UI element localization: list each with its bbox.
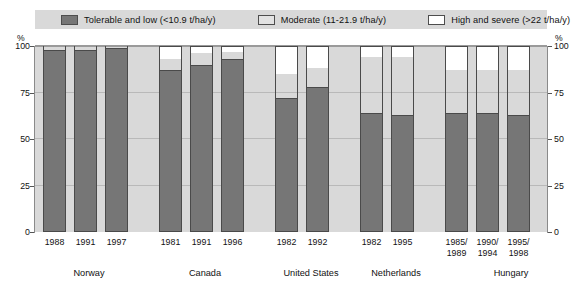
bar-1991[interactable] (74, 46, 97, 232)
bar-segment-high (275, 46, 298, 74)
y-tick-label-right-100: 100 (554, 41, 576, 51)
legend-item-moderate: Moderate (11-21.9 t/ha/y) (258, 15, 387, 25)
bar-segment-low (445, 113, 468, 232)
bar-segment-moderate (391, 57, 414, 115)
x-tick-label-12: 1995/ 1998 (499, 237, 539, 258)
bar-segment-high (476, 46, 499, 70)
bar-segment-moderate (74, 46, 97, 50)
legend-item-high: High and severe (>22 t/ha/y) (428, 15, 570, 25)
legend-label-high: High and severe (>22 t/ha/y) (451, 15, 570, 25)
bar-1982[interactable] (360, 46, 383, 232)
bar-segment-moderate (476, 70, 499, 113)
bar-1996[interactable] (221, 46, 244, 232)
bar-segment-moderate (275, 74, 298, 98)
bar-segment-low (74, 50, 97, 232)
bar-segment-low (476, 113, 499, 232)
y-tick-mark-left-75 (30, 93, 34, 94)
bar-segment-moderate (190, 53, 213, 64)
chart-plot-area (35, 46, 547, 232)
legend-label-low: Tolerable and low (<10.9 t/ha/y) (84, 15, 216, 25)
group-label-netherlands: Netherlands (336, 268, 456, 278)
bar-1992[interactable] (306, 46, 329, 232)
y-tick-label-right-75: 75 (554, 88, 576, 98)
bar-segment-high (507, 46, 530, 70)
bar-1997[interactable] (105, 46, 128, 232)
bar-segment-moderate (445, 70, 468, 113)
y-tick-mark-left-100 (30, 46, 34, 47)
bar-segment-high (391, 46, 414, 57)
y-tick-mark-right-25 (548, 186, 552, 187)
bar-1995--1998[interactable] (507, 46, 530, 232)
bar-segment-moderate (105, 46, 128, 48)
bar-segment-moderate (43, 46, 66, 50)
chart-legend: Tolerable and low (<10.9 t/ha/y) Moderat… (35, 10, 547, 29)
bar-segment-low (275, 98, 298, 232)
y-tick-mark-right-0 (548, 232, 552, 233)
legend-swatch-moderate (258, 15, 275, 25)
y-tick-label-left-100: 100 (8, 41, 30, 51)
bar-segment-low (159, 70, 182, 232)
group-label-hungary: Hungary (451, 268, 571, 278)
bar-1995[interactable] (391, 46, 414, 232)
group-label-canada: Canada (145, 268, 265, 278)
x-tick-label-9: 1995 (383, 237, 423, 248)
bar-segment-moderate (306, 68, 329, 87)
bar-segment-low (306, 87, 329, 232)
legend-swatch-low (61, 15, 78, 25)
bar-segment-moderate (159, 59, 182, 70)
x-tick-label-5: 1996 (213, 237, 253, 248)
y-tick-label-right-25: 25 (554, 181, 576, 191)
y-tick-label-left-0: 0 (8, 227, 30, 237)
bar-segment-moderate (360, 57, 383, 113)
y-tick-mark-right-75 (548, 93, 552, 94)
bar-segment-low (190, 65, 213, 232)
group-label-norway: Norway (29, 268, 149, 278)
x-tick-label-7: 1992 (298, 237, 338, 248)
x-tick-label-2: 1997 (97, 237, 137, 248)
y-tick-mark-left-25 (30, 186, 34, 187)
bar-segment-low (105, 48, 128, 232)
bar-segment-high (221, 46, 244, 52)
y-tick-label-right-50: 50 (554, 134, 576, 144)
bar-segment-high (159, 46, 182, 59)
legend-item-low: Tolerable and low (<10.9 t/ha/y) (61, 15, 216, 25)
y-tick-mark-left-0 (30, 232, 34, 233)
bar-segment-low (360, 113, 383, 232)
bar-segment-high (445, 46, 468, 70)
bar-segment-high (306, 46, 329, 68)
y-tick-label-left-75: 75 (8, 88, 30, 98)
legend-label-moderate: Moderate (11-21.9 t/ha/y) (281, 15, 387, 25)
bar-segment-moderate (507, 70, 530, 115)
bar-segment-low (391, 115, 414, 232)
legend-swatch-high (428, 15, 445, 25)
bar-1991[interactable] (190, 46, 213, 232)
bar-segment-low (43, 50, 66, 232)
bar-1982[interactable] (275, 46, 298, 232)
bar-1988[interactable] (43, 46, 66, 232)
bar-segment-moderate (221, 52, 244, 59)
y-tick-mark-right-50 (548, 139, 552, 140)
bar-1990--1994[interactable] (476, 46, 499, 232)
y-tick-label-left-25: 25 (8, 181, 30, 191)
bar-segment-high (360, 46, 383, 57)
y-tick-mark-left-50 (30, 139, 34, 140)
bar-1981[interactable] (159, 46, 182, 232)
bar-segment-high (190, 46, 213, 53)
y-tick-label-right-0: 0 (554, 227, 576, 237)
y-tick-label-left-50: 50 (8, 134, 30, 144)
bar-segment-low (507, 115, 530, 232)
y-tick-mark-right-100 (548, 46, 552, 47)
bar-1985--1989[interactable] (445, 46, 468, 232)
bar-segment-low (221, 59, 244, 232)
